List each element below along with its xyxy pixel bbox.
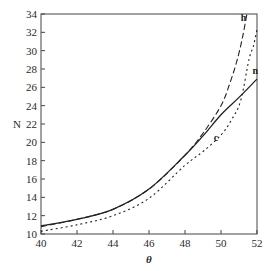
y-tick-label: 28 — [26, 63, 38, 75]
x-axis-label: θ — [146, 253, 152, 265]
x-tick-label: 40 — [36, 237, 48, 249]
y-axis-ticks: 10121416182022242628303234 — [26, 8, 45, 240]
y-tick-label: 30 — [26, 45, 38, 57]
y-tick-label: 12 — [26, 210, 37, 222]
curve-label-c: c — [214, 132, 219, 143]
curve-annotations: hnc — [214, 12, 259, 142]
x-tick-label: 44 — [108, 237, 120, 249]
y-tick-label: 32 — [26, 26, 37, 38]
curve-label-n: n — [253, 65, 259, 76]
y-tick-label: 20 — [26, 136, 38, 148]
curve-n — [41, 79, 257, 226]
y-tick-label: 14 — [26, 191, 38, 203]
x-tick-label: 46 — [144, 237, 156, 249]
plot-frame — [41, 14, 257, 234]
y-tick-label: 34 — [26, 8, 38, 20]
y-tick-label: 16 — [26, 173, 38, 185]
curves — [41, 14, 257, 231]
curve-c — [41, 30, 257, 232]
x-tick-label: 42 — [72, 237, 83, 249]
y-tick-label: 26 — [26, 81, 38, 93]
x-tick-label: 52 — [252, 237, 263, 249]
y-tick-label: 24 — [26, 100, 38, 112]
x-tick-label: 48 — [180, 237, 192, 249]
curve-label-h: h — [241, 12, 247, 23]
y-tick-label: 18 — [26, 155, 38, 167]
y-axis-label: N — [13, 118, 21, 130]
x-axis-ticks: 40424446485052 — [36, 230, 263, 249]
x-tick-label: 50 — [216, 237, 228, 249]
line-chart: 10121416182022242628303234 4042444648505… — [0, 0, 268, 271]
y-tick-label: 22 — [26, 118, 37, 130]
